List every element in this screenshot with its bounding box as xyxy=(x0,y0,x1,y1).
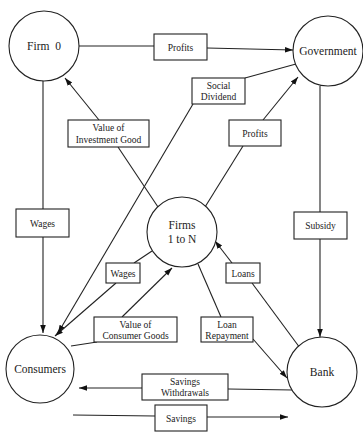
node-consumers: Consumers xyxy=(6,335,74,403)
svg-text:Consumers: Consumers xyxy=(14,363,66,375)
svg-text:Value of: Value of xyxy=(93,123,126,133)
node-firms-1-to-n: Firms 1 to N xyxy=(147,197,217,267)
label-box-consumer-goods: Value of Consumer Goods xyxy=(94,317,177,342)
svg-text:Savings: Savings xyxy=(166,414,196,424)
label-box-wages-left: Wages xyxy=(16,209,69,237)
svg-text:Wages: Wages xyxy=(110,269,135,279)
label-box-profits-top: Profits xyxy=(154,34,207,60)
node-government: Government xyxy=(293,16,363,86)
svg-text:Firms: Firms xyxy=(169,219,196,231)
svg-text:Investment Good: Investment Good xyxy=(76,135,142,145)
svg-text:Savings: Savings xyxy=(170,377,200,387)
svg-text:Wages: Wages xyxy=(30,219,55,229)
svg-text:Loans: Loans xyxy=(231,269,255,279)
svg-text:Loan: Loan xyxy=(217,320,237,330)
label-box-subsidy: Subsidy xyxy=(294,212,347,239)
svg-text:Firm 0: Firm 0 xyxy=(27,40,61,52)
label-box-wages-mid: Wages xyxy=(106,263,140,283)
node-bank: Bank xyxy=(287,337,357,407)
svg-text:Consumer Goods: Consumer Goods xyxy=(102,331,169,341)
svg-text:Bank: Bank xyxy=(310,366,335,378)
svg-text:Subsidy: Subsidy xyxy=(305,221,336,231)
label-box-social-dividend: Social Dividend xyxy=(192,78,245,104)
node-firm0: Firm 0 xyxy=(9,11,79,81)
svg-text:Repayment: Repayment xyxy=(205,331,249,341)
label-box-loan-repayment: Loan Repayment xyxy=(201,317,253,342)
flow-diagram: Profits Social Dividend Profits Value of… xyxy=(0,0,363,446)
svg-text:Government: Government xyxy=(299,45,357,57)
svg-text:Withdrawals: Withdrawals xyxy=(161,388,209,398)
svg-text:Profits: Profits xyxy=(242,129,268,139)
svg-text:Value of: Value of xyxy=(120,320,153,330)
svg-text:Social: Social xyxy=(207,81,231,91)
label-box-savings-withdrawals: Savings Withdrawals xyxy=(142,374,228,400)
svg-text:Dividend: Dividend xyxy=(201,92,237,102)
label-box-savings: Savings xyxy=(155,405,207,431)
label-box-profits-mid: Profits xyxy=(229,120,281,146)
svg-text:Profits: Profits xyxy=(168,43,194,53)
svg-text:1 to N: 1 to N xyxy=(168,233,197,245)
label-box-investment-good: Value of Investment Good xyxy=(68,120,149,147)
label-box-loans: Loans xyxy=(226,263,260,283)
